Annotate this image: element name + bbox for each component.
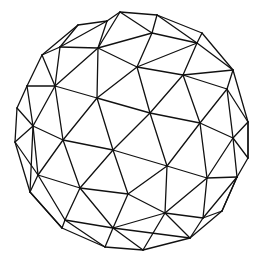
sphere-edge [237, 158, 248, 177]
sphere-edge [65, 220, 105, 247]
sphere-edge [97, 98, 150, 113]
sphere-edge [207, 138, 233, 178]
sphere-edge [167, 123, 200, 166]
sphere-edge [202, 33, 233, 70]
sphere-edge [65, 220, 113, 228]
illustration-canvas [0, 0, 260, 262]
sphere-edge [222, 177, 237, 211]
sphere-edge [62, 220, 65, 228]
sphere-edge [15, 142, 30, 192]
sphere-edge [183, 75, 227, 89]
sphere-edge [113, 150, 167, 166]
sphere-edge [97, 67, 137, 98]
sphere-edge [233, 122, 248, 138]
sphere-edge [60, 47, 98, 48]
sphere-edge [197, 43, 233, 70]
sphere-edge [233, 138, 237, 177]
sphere-edge [80, 150, 113, 188]
sphere-edge [55, 47, 60, 86]
sphere-edge [150, 75, 183, 113]
sphere-edge [15, 126, 33, 142]
sphere-edge [55, 86, 63, 140]
sphere-edge [200, 123, 207, 178]
sphere-edge [200, 89, 227, 123]
sphere-edge [27, 55, 42, 86]
sphere-edge [62, 228, 105, 247]
sphere-edge [227, 70, 233, 89]
sphere-edge [150, 113, 167, 166]
sphere-edge [105, 247, 143, 250]
sphere-edge [165, 178, 207, 213]
sphere-edge [113, 194, 128, 228]
sphere-edge [30, 192, 62, 228]
sphere-edge [63, 98, 97, 140]
sphere-edge [38, 140, 63, 175]
sphere-edge [165, 166, 167, 213]
sphere-edge [97, 98, 113, 150]
sphere-edge [233, 70, 248, 122]
sphere-edge [63, 140, 113, 150]
sphere-edge [120, 12, 157, 15]
sphere-edge [105, 228, 113, 247]
sphere-edge [165, 213, 203, 218]
sphere-edge [55, 86, 97, 98]
sphere-edge [128, 194, 165, 213]
sphere-edge [17, 86, 27, 108]
sphere-edge [183, 70, 233, 75]
sphere-edge [143, 238, 190, 250]
sphere-edge [137, 67, 150, 113]
sphere-edge [98, 48, 137, 67]
sphere-edge [137, 67, 183, 75]
sphere-edge [80, 188, 128, 194]
sphere-edge [30, 126, 33, 192]
sphere-edge [97, 48, 98, 98]
sphere-edge [113, 150, 128, 194]
sphere-edge [167, 166, 207, 178]
sphere-edge [107, 12, 120, 21]
sphere-edge [65, 188, 80, 220]
sphere-edge [207, 177, 237, 178]
sphere-edge [197, 33, 202, 43]
sphere-edge [55, 48, 98, 86]
geodesic-sphere-illustration [0, 0, 260, 262]
sphere-edge [120, 12, 152, 33]
wireframe-edges [15, 12, 248, 250]
sphere-edge [33, 126, 63, 140]
sphere-edge [183, 75, 200, 123]
sphere-edge [165, 213, 190, 238]
sphere-edge [33, 86, 55, 126]
sphere-edge [15, 108, 17, 142]
sphere-edge [80, 188, 113, 228]
sphere-edge [152, 15, 157, 33]
sphere-edge [150, 113, 200, 123]
sphere-edge [113, 113, 150, 150]
sphere-edge [203, 178, 207, 218]
sphere-edge [63, 140, 80, 188]
sphere-edge [33, 126, 38, 175]
sphere-edge [200, 123, 233, 138]
sphere-edge [60, 25, 78, 47]
sphere-edge [128, 166, 167, 194]
sphere-edge [42, 55, 55, 86]
